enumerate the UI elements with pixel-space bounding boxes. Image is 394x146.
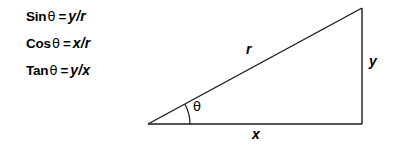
triangle-side-hypotenuse [148,8,362,124]
label-adjacent-x: x [252,126,260,142]
label-angle-theta: θ [193,99,201,114]
triangle-svg [0,0,394,146]
right-triangle-diagram: r y x θ [0,0,394,146]
angle-arc [185,104,190,124]
trig-figure: Sinθ=y/r Cosθ=x/r Tanθ=y/x r y x θ [0,0,394,146]
label-opposite-y: y [369,53,377,69]
label-hypotenuse-r: r [246,41,251,57]
